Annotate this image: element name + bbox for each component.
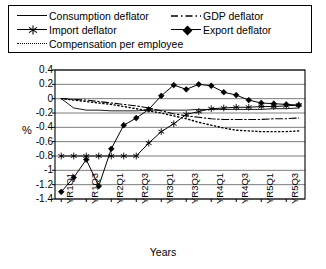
chart-figure: Consumption deflator Import deflator Com… <box>0 0 326 269</box>
x-tick-label: YR3Q1 <box>165 173 175 204</box>
x-axis-label: Years <box>0 246 326 258</box>
x-tick-label: YR5Q3 <box>290 173 300 204</box>
x-tick-label: YR4Q1 <box>215 173 225 204</box>
x-tick-label: YR1Q1 <box>65 173 75 204</box>
x-tick-label: YR4Q3 <box>240 173 250 204</box>
x-tick-label: YR5Q1 <box>265 173 275 204</box>
x-tick-label: YR2Q3 <box>140 173 150 204</box>
x-tick-label: YR3Q3 <box>190 173 200 204</box>
x-tick-label: YR1Q3 <box>90 173 100 204</box>
x-axis-ticks: YR1Q1YR1Q3YR2Q1YR2Q3YR3Q1YR3Q3YR4Q1YR4Q3… <box>0 0 326 269</box>
x-tick-label: YR2Q1 <box>115 173 125 204</box>
